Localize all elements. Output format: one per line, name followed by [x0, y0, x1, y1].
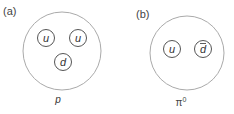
quark-d: d [55, 54, 72, 71]
svg-text:u: u [43, 32, 49, 44]
panel-b: (b) u d π0 [136, 8, 224, 108]
svg-text:u: u [169, 43, 175, 55]
svg-text:d: d [200, 43, 207, 55]
panel-a-label: (a) [3, 5, 16, 17]
proton-outline [23, 12, 101, 90]
particle-label-proton: p [54, 94, 61, 105]
pion-outline [150, 16, 224, 90]
quark-u: u [164, 41, 181, 58]
quark-u1: u [38, 30, 55, 47]
particle-label-pion: π0 [176, 96, 187, 108]
quark-u2: u [70, 30, 87, 47]
quark-diagram: (a) u u d p (b) u d π0 [0, 0, 234, 114]
panel-b-label: (b) [136, 8, 149, 20]
svg-text:d: d [60, 56, 67, 68]
svg-text:u: u [75, 32, 81, 44]
panel-a: (a) u u d p [3, 5, 101, 105]
quark-anti-d: d [195, 41, 212, 58]
